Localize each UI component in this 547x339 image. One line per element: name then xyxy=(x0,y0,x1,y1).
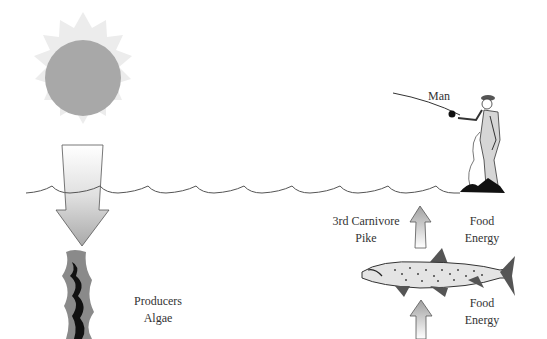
food-energy-line2: Energy xyxy=(452,312,512,329)
food-energy-label-lower: Food Energy xyxy=(452,295,512,329)
man-label: Man xyxy=(428,88,450,105)
algae-label-line2: Algae xyxy=(118,310,198,327)
algae-icon xyxy=(62,250,94,339)
sun-icon xyxy=(34,12,132,124)
arrow-up-icon xyxy=(410,300,432,339)
food-energy-line2: Energy xyxy=(452,230,512,247)
food-energy-label-upper: Food Energy xyxy=(452,213,512,247)
algae-label-line1: Producers xyxy=(118,293,198,310)
pike-label: 3rd Carnivore Pike xyxy=(326,213,406,247)
fish-icon xyxy=(362,248,515,297)
diagram-graphics xyxy=(0,0,547,339)
sunlight-arrow-icon xyxy=(56,145,109,246)
food-energy-line1: Food xyxy=(452,295,512,312)
food-chain-diagram: Man 3rd Carnivore Pike Food Energy Food … xyxy=(0,0,547,339)
pike-label-line2: Pike xyxy=(326,230,406,247)
algae-label: Producers Algae xyxy=(118,293,198,327)
fisherman-icon xyxy=(393,93,505,193)
arrow-up-icon xyxy=(410,206,431,248)
pike-label-line1: 3rd Carnivore xyxy=(326,213,406,230)
food-energy-line1: Food xyxy=(452,213,512,230)
